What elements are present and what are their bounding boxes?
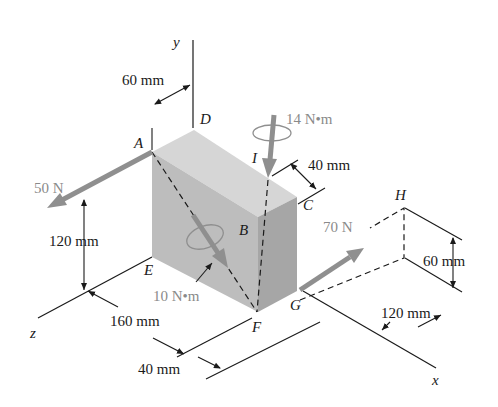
point-I-label: I [251, 150, 258, 166]
rectangular-block [152, 130, 297, 312]
dim-120-right-label: 120 mm [381, 305, 431, 321]
couple-10Nm-label: 10 N•m [153, 288, 200, 304]
dim-40-bottom-label: 40 mm [138, 361, 180, 377]
point-A-label: A [133, 135, 144, 151]
dim-60-top-label: 60 mm [122, 72, 164, 88]
dim-120-left-label: 120 mm [49, 233, 99, 249]
dim-40-top-label: 40 mm [308, 157, 350, 173]
rigid-body-diagram: y z x A D I C B E F G H 50 N 70 N 14 N•m… [0, 0, 498, 407]
y-axis-label: y [171, 34, 180, 50]
x-axis-label: x [431, 372, 439, 388]
dim-60-right [405, 208, 462, 292]
x-axis [303, 291, 436, 368]
force-50N-label: 50 N [34, 180, 64, 196]
dim-160-label: 160 mm [110, 313, 160, 329]
point-G-label: G [290, 297, 301, 313]
z-axis [38, 257, 152, 318]
couple-14Nm-label: 14 N•m [286, 111, 333, 127]
point-F-label: F [251, 319, 262, 335]
dim-160 [88, 291, 118, 307]
z-axis-label: z [29, 325, 36, 341]
point-H-label: H [394, 187, 407, 203]
point-D-label: D [199, 111, 211, 127]
point-E-label: E [143, 262, 153, 278]
force-70N-arrow [300, 248, 364, 290]
point-B-label: B [239, 222, 248, 238]
force-70N-label: 70 N [323, 219, 353, 235]
point-C-label: C [303, 197, 314, 213]
dim-60-right-label: 60 mm [423, 253, 465, 269]
box-side-face [258, 197, 297, 312]
